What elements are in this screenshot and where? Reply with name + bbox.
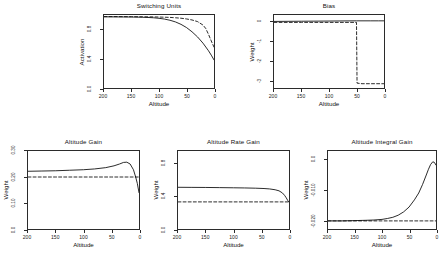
x-tick-label: 200 (323, 234, 331, 240)
y-tick-label: 0.0 (311, 149, 316, 169)
x-tick-label: 0 (436, 234, 439, 240)
data-series-line (328, 162, 436, 221)
y-tick-mark (324, 190, 327, 191)
y-tick-label: -0.020 (311, 211, 316, 231)
x-tick-mark (437, 230, 438, 233)
y-tick-mark (324, 221, 327, 222)
y-tick-mark (324, 159, 327, 160)
multi-panel-figure: Switching Units2001501005000.00.40.8Alti… (0, 0, 444, 269)
x-axis-label: Altitude (332, 241, 432, 249)
plot-canvas (328, 151, 436, 229)
x-tick-mark (410, 230, 411, 233)
x-tick-mark (327, 230, 328, 233)
x-tick-mark (382, 230, 383, 233)
x-tick-mark (355, 230, 356, 233)
x-tick-label: 100 (378, 234, 386, 240)
y-axis-label: Weight (302, 160, 310, 220)
y-tick-label: -0.010 (311, 180, 316, 200)
chart-title: Altitude Integral Gain (302, 138, 444, 146)
chart-panel: Altitude Integral Gain2001501005000.0-0.… (0, 0, 444, 269)
x-tick-label: 50 (407, 234, 413, 240)
x-tick-label: 150 (350, 234, 358, 240)
plot-area (327, 150, 437, 230)
